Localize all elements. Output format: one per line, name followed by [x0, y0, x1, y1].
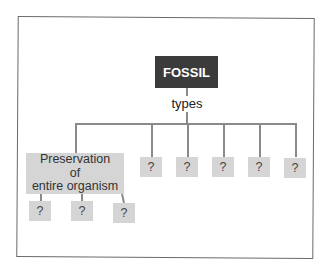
branch-connector-3: [187, 123, 189, 157]
child-connector-2: [81, 194, 83, 201]
branch-connector-2: [151, 123, 153, 157]
type-node-5: ?: [248, 157, 270, 177]
subtype-node-3: ?: [113, 203, 135, 223]
diagram-frame: [16, 16, 314, 259]
type-node-3: ?: [176, 157, 198, 177]
connector-label-types: types: [167, 96, 207, 112]
node-line-3: entire organism: [32, 180, 118, 194]
subtype-node-1: ?: [29, 201, 51, 221]
root-label: FOSSIL: [163, 65, 210, 80]
branch-connector-6: [295, 123, 297, 157]
branch-connector-5: [259, 123, 261, 157]
horizontal-connector: [75, 123, 296, 125]
type-node-2: ?: [140, 157, 162, 177]
child-connector-1: [40, 194, 42, 201]
branch-connector-1: [75, 123, 77, 153]
branch-connector-4: [223, 123, 225, 157]
subtype-node-2: ?: [71, 201, 93, 221]
root-node-fossil: FOSSIL: [155, 56, 218, 88]
type-node-entire-organism: Preservation of entire organism: [26, 153, 124, 194]
node-line-1: Preservation: [32, 153, 118, 167]
node-line-2: of: [32, 167, 118, 181]
type-node-6: ?: [284, 158, 306, 178]
type-node-4: ?: [212, 157, 234, 177]
